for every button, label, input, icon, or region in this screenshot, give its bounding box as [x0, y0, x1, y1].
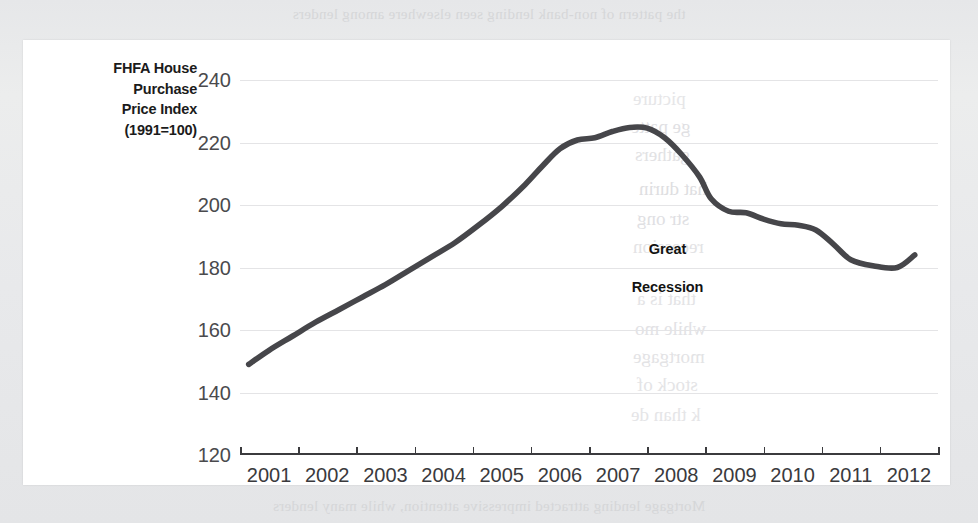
x-tick-label-2005: 2005: [480, 464, 525, 487]
y-tick-label-240: 240: [198, 69, 231, 92]
annotation-great-recession: Great Recession: [632, 220, 704, 315]
y-axis-title: FHFA House Purchase Price Index (1991=10…: [47, 58, 197, 140]
y-tick-label-160: 160: [198, 319, 231, 342]
x-tick-label-2011: 2011: [829, 464, 872, 487]
x-tick-label-2006: 2006: [538, 464, 583, 487]
y-tick-label-200: 200: [198, 194, 231, 217]
y-axis-title-line-1: FHFA House: [47, 58, 197, 79]
y-axis-title-line-4: (1991=100): [47, 120, 197, 141]
x-tick-label-2004: 2004: [421, 464, 466, 487]
x-tick-label-2010: 2010: [770, 464, 815, 487]
x-tick-label-2009: 2009: [712, 464, 757, 487]
x-tick-label-2002: 2002: [305, 464, 350, 487]
x-tick-label-2008: 2008: [654, 464, 699, 487]
y-tick-label-120: 120: [198, 444, 231, 467]
y-tick-label-140: 140: [198, 381, 231, 404]
series-path-fhfa-index: [249, 127, 915, 364]
x-tick-label-2007: 2007: [596, 464, 641, 487]
y-axis-title-line-3: Price Index: [47, 99, 197, 120]
x-tick-label-2003: 2003: [363, 464, 408, 487]
y-tick-label-220: 220: [198, 131, 231, 154]
chart-card: picture ge patte gathers hat durin str o…: [23, 40, 950, 485]
x-tick-label-2001: 2001: [247, 464, 292, 487]
annotation-line-2: Recession: [632, 277, 704, 296]
ghost-text-top: the pattern of non-bank lending seen els…: [0, 6, 978, 23]
y-axis-title-line-2: Purchase: [47, 79, 197, 100]
y-tick-label-180: 180: [198, 256, 231, 279]
x-tick-2013: [938, 447, 940, 455]
annotation-line-1: Great: [632, 239, 704, 258]
plot-area: 120140160180200220240 200120022003200420…: [240, 80, 938, 455]
series-line-chart: [240, 80, 938, 455]
ghost-text-bottom: Mortgage lending attracted impressive at…: [0, 498, 978, 515]
x-tick-label-2012: 2012: [887, 464, 932, 487]
